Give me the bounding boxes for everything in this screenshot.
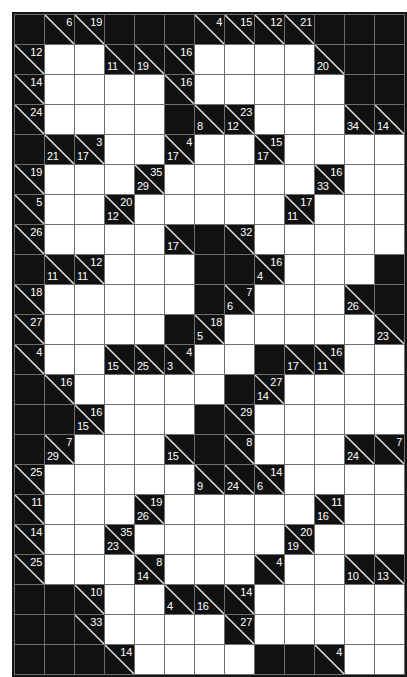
entry-cell[interactable] <box>105 225 134 254</box>
entry-cell[interactable] <box>225 75 254 104</box>
entry-cell[interactable] <box>105 435 134 464</box>
entry-cell[interactable] <box>375 615 404 644</box>
entry-cell[interactable] <box>375 525 404 554</box>
entry-cell[interactable] <box>195 555 224 584</box>
entry-cell[interactable] <box>345 225 374 254</box>
entry-cell[interactable] <box>195 495 224 524</box>
entry-cell[interactable] <box>375 345 404 374</box>
entry-cell[interactable] <box>315 615 344 644</box>
entry-cell[interactable] <box>165 465 194 494</box>
entry-cell[interactable] <box>285 315 314 344</box>
entry-cell[interactable] <box>225 525 254 554</box>
entry-cell[interactable] <box>285 255 314 284</box>
entry-cell[interactable] <box>75 435 104 464</box>
entry-cell[interactable] <box>75 315 104 344</box>
entry-cell[interactable] <box>45 465 74 494</box>
entry-cell[interactable] <box>285 615 314 644</box>
entry-cell[interactable] <box>315 225 344 254</box>
entry-cell[interactable] <box>165 375 194 404</box>
entry-cell[interactable] <box>165 285 194 314</box>
entry-cell[interactable] <box>375 465 404 494</box>
entry-cell[interactable] <box>45 45 74 74</box>
entry-cell[interactable] <box>195 75 224 104</box>
entry-cell[interactable] <box>105 135 134 164</box>
entry-cell[interactable] <box>75 465 104 494</box>
entry-cell[interactable] <box>255 195 284 224</box>
entry-cell[interactable] <box>315 525 344 554</box>
entry-cell[interactable] <box>105 75 134 104</box>
entry-cell[interactable] <box>45 195 74 224</box>
entry-cell[interactable] <box>345 315 374 344</box>
entry-cell[interactable] <box>135 585 164 614</box>
entry-cell[interactable] <box>75 375 104 404</box>
entry-cell[interactable] <box>315 75 344 104</box>
entry-cell[interactable] <box>45 555 74 584</box>
entry-cell[interactable] <box>285 285 314 314</box>
entry-cell[interactable] <box>135 645 164 674</box>
entry-cell[interactable] <box>285 465 314 494</box>
entry-cell[interactable] <box>195 195 224 224</box>
entry-cell[interactable] <box>255 435 284 464</box>
entry-cell[interactable] <box>285 165 314 194</box>
kakuro-grid[interactable]: 6194151221121119162014162482312341421317… <box>12 12 407 677</box>
entry-cell[interactable] <box>375 225 404 254</box>
entry-cell[interactable] <box>105 585 134 614</box>
entry-cell[interactable] <box>225 645 254 674</box>
entry-cell[interactable] <box>225 315 254 344</box>
entry-cell[interactable] <box>165 165 194 194</box>
entry-cell[interactable] <box>105 555 134 584</box>
entry-cell[interactable] <box>135 315 164 344</box>
entry-cell[interactable] <box>75 45 104 74</box>
entry-cell[interactable] <box>285 105 314 134</box>
entry-cell[interactable] <box>285 135 314 164</box>
entry-cell[interactable] <box>285 435 314 464</box>
entry-cell[interactable] <box>225 555 254 584</box>
entry-cell[interactable] <box>135 405 164 434</box>
entry-cell[interactable] <box>345 645 374 674</box>
entry-cell[interactable] <box>375 645 404 674</box>
entry-cell[interactable] <box>165 195 194 224</box>
entry-cell[interactable] <box>135 615 164 644</box>
entry-cell[interactable] <box>255 525 284 554</box>
entry-cell[interactable] <box>255 165 284 194</box>
entry-cell[interactable] <box>255 225 284 254</box>
entry-cell[interactable] <box>345 375 374 404</box>
entry-cell[interactable] <box>315 405 344 434</box>
entry-cell[interactable] <box>75 195 104 224</box>
entry-cell[interactable] <box>375 405 404 434</box>
entry-cell[interactable] <box>165 255 194 284</box>
entry-cell[interactable] <box>105 165 134 194</box>
entry-cell[interactable] <box>135 285 164 314</box>
entry-cell[interactable] <box>375 135 404 164</box>
entry-cell[interactable] <box>285 75 314 104</box>
entry-cell[interactable] <box>285 585 314 614</box>
entry-cell[interactable] <box>165 645 194 674</box>
entry-cell[interactable] <box>345 195 374 224</box>
entry-cell[interactable] <box>45 345 74 374</box>
entry-cell[interactable] <box>135 525 164 554</box>
entry-cell[interactable] <box>345 165 374 194</box>
entry-cell[interactable] <box>135 225 164 254</box>
entry-cell[interactable] <box>285 495 314 524</box>
entry-cell[interactable] <box>45 75 74 104</box>
entry-cell[interactable] <box>75 495 104 524</box>
entry-cell[interactable] <box>165 405 194 434</box>
entry-cell[interactable] <box>195 375 224 404</box>
entry-cell[interactable] <box>255 615 284 644</box>
entry-cell[interactable] <box>105 285 134 314</box>
entry-cell[interactable] <box>285 405 314 434</box>
entry-cell[interactable] <box>225 495 254 524</box>
entry-cell[interactable] <box>45 525 74 554</box>
entry-cell[interactable] <box>45 495 74 524</box>
entry-cell[interactable] <box>255 45 284 74</box>
entry-cell[interactable] <box>195 525 224 554</box>
entry-cell[interactable] <box>165 555 194 584</box>
entry-cell[interactable] <box>135 435 164 464</box>
entry-cell[interactable] <box>135 255 164 284</box>
entry-cell[interactable] <box>315 315 344 344</box>
entry-cell[interactable] <box>135 195 164 224</box>
entry-cell[interactable] <box>75 285 104 314</box>
entry-cell[interactable] <box>165 495 194 524</box>
entry-cell[interactable] <box>255 585 284 614</box>
entry-cell[interactable] <box>75 75 104 104</box>
